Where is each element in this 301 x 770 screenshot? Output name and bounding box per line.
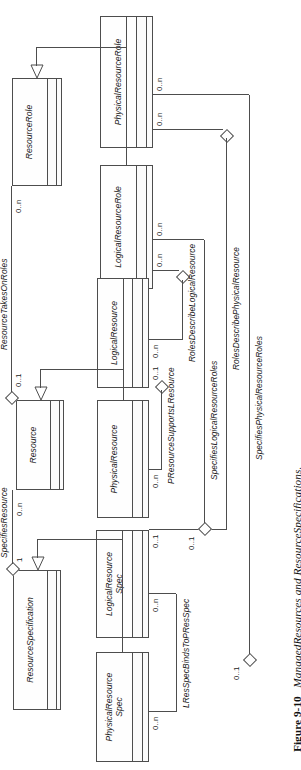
- class-name-physical-resource-spec: PhysicalResource Spec: [97, 653, 133, 761]
- gen-line-res-stem: [40, 370, 41, 388]
- association-label-presource-supports-lresource: PResourceSupportsLResource: [166, 367, 176, 484]
- class-operations-logical-resource: [143, 279, 148, 387]
- class-attributes-resource-role: [48, 79, 57, 185]
- figure-number: Figure 9-10: [291, 696, 301, 752]
- multiplicity-logicalresourcerole-0n-b: 0..n: [155, 223, 164, 236]
- figure-page: ResourceRole PhysicalResourceRole Logica…: [0, 0, 301, 770]
- assoc-line-rdpr-v1: [149, 529, 226, 530]
- multiplicity-physicalresourcerole-0n-a: 0..n: [155, 113, 164, 126]
- assoc-line-presource-supports-lresource: [161, 390, 162, 470]
- assoc-line-rdpr-v2: [153, 129, 223, 130]
- aggregation-diamond-specifies-physical-resource-roles: [243, 653, 257, 667]
- multiplicity-resource-01: 0..1: [14, 374, 23, 387]
- class-operations-physical-resource: [143, 401, 148, 517]
- assoc-line-slrr-h1: [204, 240, 205, 523]
- gen-line-rs-to-lrs: [122, 530, 123, 540]
- class-attributes-logical-resource-spec: [133, 531, 143, 637]
- class-resource[interactable]: Resource: [16, 400, 64, 490]
- class-attributes-resource-specification: [48, 571, 57, 709]
- assoc-line-lrsbtprs-v2: [149, 711, 176, 712]
- multiplicity-physicalresource-01: 0..1: [151, 535, 160, 548]
- generalization-triangle-resource-role: [30, 66, 43, 78]
- association-label-specifies-logical-resource-roles: SpecifiesLogicalResourceRoles: [209, 361, 219, 480]
- class-name-physical-resource-role: PhysicalResourceRole: [101, 17, 137, 147]
- class-attributes-physical-resource-role: [137, 17, 147, 147]
- gen-line-res-to-pr: [123, 370, 124, 400]
- class-attributes-resource: [51, 401, 60, 489]
- class-name-resource-specification: ResourceSpecification: [14, 571, 48, 709]
- class-logical-resource-role[interactable]: LogicalResourceRole: [100, 165, 153, 289]
- assoc-line-rdlr-h1: [182, 280, 183, 340]
- assoc-line-specifies-resource: [12, 490, 13, 564]
- class-physical-resource-spec[interactable]: PhysicalResource Spec: [96, 652, 149, 762]
- class-operations-resource-specification: [57, 571, 60, 709]
- assoc-line-rdpr-h1: [226, 138, 227, 530]
- class-resource-specification[interactable]: ResourceSpecification: [13, 570, 61, 710]
- gen-line-res-bus: [40, 369, 123, 370]
- assoc-line-rdlr-v1: [149, 339, 182, 340]
- class-operations-resource: [60, 401, 63, 489]
- generalization-triangle-resource: [34, 388, 47, 400]
- association-label-specifies-resource: SpecifiesResource: [0, 487, 9, 558]
- class-attributes-logical-resource-role: [137, 166, 147, 288]
- multiplicity-logicalresourcerole-0n-a: 0..n: [155, 254, 164, 267]
- class-operations-logical-resource-spec: [143, 531, 148, 637]
- class-name-resource: Resource: [17, 401, 51, 489]
- multiplicity-logicalresourcespec-0n: 0..n: [151, 599, 160, 612]
- aggregation-diamond-roles-describe-physical-resource: [220, 129, 234, 143]
- class-operations-physical-resource-spec: [143, 653, 148, 761]
- multiplicity-logicalresource-01: 0..1: [151, 367, 160, 380]
- class-operations-logical-resource-role: [147, 166, 152, 288]
- class-name-logical-resource-role: LogicalResourceRole: [101, 166, 137, 288]
- figure-caption-area: Figure 9-10 ManagedResources and Resourc…: [271, 0, 299, 770]
- gen-line-rs-to-prs: [122, 540, 123, 652]
- class-name-logical-resource-spec: LogicalResource Spec: [97, 531, 133, 637]
- gen-line-rr-bus: [36, 47, 126, 48]
- uml-class-diagram: ResourceRole PhysicalResourceRole Logica…: [0, 0, 301, 770]
- generalization-triangle-resource-specification: [31, 558, 44, 570]
- assoc-line-lrsbtprs-v1: [149, 593, 176, 594]
- class-attributes-logical-resource: [133, 279, 143, 387]
- association-label-resource-takesonroles: ResourceTakesOnRoles: [0, 259, 9, 350]
- diagram-rotation-wrapper: ResourceRole PhysicalResourceRole Logica…: [0, 0, 301, 770]
- class-attributes-physical-resource: [133, 401, 143, 517]
- class-operations-physical-resource-role: [147, 17, 152, 147]
- association-label-roles-describe-logical-resource: RolesDescribeLogicalResource: [187, 244, 197, 362]
- gen-line-rs-bus: [37, 539, 122, 540]
- association-label-lresspec-binds-to-presspec: LResSpecBindsToPResSpec: [181, 599, 191, 708]
- gen-line-rr-to-prr: [126, 16, 127, 48]
- multiplicity-resourcespec-1: 1: [15, 558, 24, 562]
- multiplicity-resourcerole-0n: 0..n: [14, 200, 23, 213]
- class-attributes-physical-resource-spec: [133, 653, 143, 761]
- class-operations-resource-role: [57, 79, 61, 185]
- assoc-line-lrsbtprs-h1: [176, 594, 177, 712]
- class-resource-role[interactable]: ResourceRole: [12, 78, 62, 186]
- assoc-line-rdlr-v2: [153, 270, 179, 271]
- assoc-line-sprr-h1: [249, 95, 250, 654]
- gen-line-rs-stem: [37, 540, 38, 558]
- gen-line-res-to-lr: [123, 278, 124, 370]
- figure-caption-space: [291, 690, 301, 693]
- multiplicity-physicalresourcerole-0n-b: 0..n: [155, 78, 164, 91]
- figure-caption: Figure 9-10 ManagedResources and Resourc…: [291, 467, 301, 752]
- assoc-line-sprr-v1: [153, 94, 249, 95]
- multiplicity-physicalresourcespec-0n: 0..n: [151, 717, 160, 730]
- gen-line-rr-stem: [36, 48, 37, 66]
- association-label-roles-describe-physical-resource: RolesDescribePhysicalResource: [231, 247, 241, 370]
- assoc-line-presource-supports-lresource-v: [149, 469, 161, 470]
- multiplicity-logicalresource-0n: 0..n: [151, 345, 160, 358]
- multiplicity-physicalresourcespec-01: 0..1: [232, 667, 241, 680]
- assoc-line-slrr-v1: [153, 239, 204, 240]
- gen-line-rr-to-lrr: [126, 48, 127, 165]
- class-name-physical-resource: PhysicalResource: [98, 401, 133, 517]
- association-label-specifies-physical-resource-roles: SpecifiesPhysicalResourceRoles: [254, 336, 264, 460]
- multiplicity-physicalresource-0n: 0..n: [151, 475, 160, 488]
- class-name-logical-resource: LogicalResource: [98, 279, 133, 387]
- class-name-resource-role: ResourceRole: [13, 79, 48, 185]
- aggregation-diamond-specifies-logical-resource-roles: [198, 522, 212, 536]
- assoc-line-resource-takesonroles: [11, 186, 12, 392]
- class-physical-resource[interactable]: PhysicalResource: [97, 400, 149, 518]
- multiplicity-logicalresourcespec-01: 0..1: [187, 537, 196, 550]
- multiplicity-resource-0n: 0..n: [15, 503, 24, 516]
- figure-title: ManagedResources and ResourceSpecificati…: [291, 467, 301, 688]
